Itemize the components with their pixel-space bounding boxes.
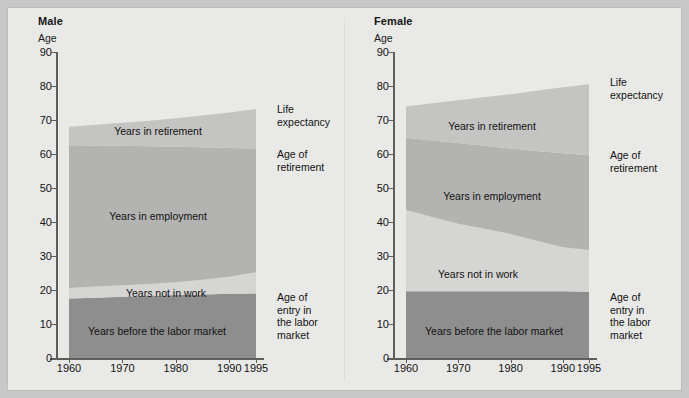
figure-panel: Male Age 0102030405060708090 19601970198… xyxy=(8,8,681,390)
side-label-age-of-entry-female: Age of entry in the labor market xyxy=(610,291,651,341)
band-label-employment-female: Years in employment xyxy=(443,190,541,202)
band-label-retirement-female: Years in retirement xyxy=(448,120,536,132)
side-label-life-expectancy-female: Life expectancy xyxy=(610,76,663,101)
band-label-not-in-work-female: Years not in work xyxy=(438,268,518,280)
side-label-age-of-retirement-female: Age of retirement xyxy=(610,149,657,174)
area-series-female xyxy=(8,8,681,390)
band-label-before-labor-market-female: Years before the labor market xyxy=(425,325,563,337)
